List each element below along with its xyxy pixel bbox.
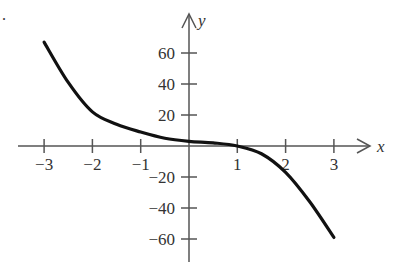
y-axis: [182, 14, 196, 262]
x-axis-label: x: [376, 137, 385, 156]
y-tick-label: −60: [148, 230, 175, 249]
corner-mark: .: [2, 6, 6, 23]
x-tick-label: −3: [35, 155, 53, 174]
y-tick-label: 20: [158, 106, 175, 125]
x-tick-label: 1: [233, 155, 242, 174]
y-tick-label: 60: [158, 44, 175, 63]
y-tick-label: −40: [148, 199, 175, 218]
y-axis-label: y: [196, 11, 206, 30]
x-tick-label: 3: [330, 155, 339, 174]
y-tick-label: 40: [158, 75, 175, 94]
x-tick-label: −1: [132, 155, 150, 174]
chart: . x y −3−2−1123604020−20−40−60: [0, 0, 398, 267]
y-tick-label: −20: [148, 168, 175, 187]
x-tick-label: −2: [83, 155, 101, 174]
